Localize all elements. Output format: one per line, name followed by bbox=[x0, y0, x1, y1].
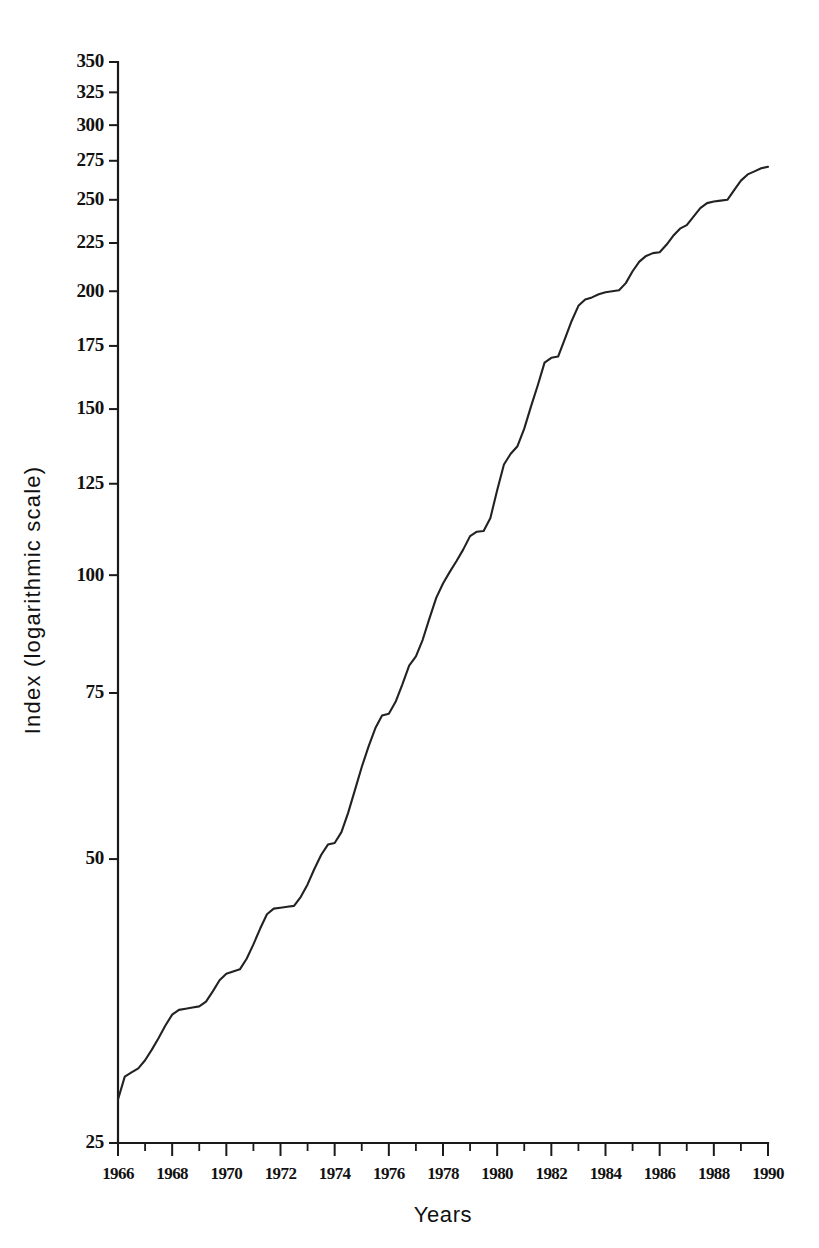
x-tick-label: 1984 bbox=[590, 1164, 623, 1183]
line-chart: 255075100125150175200225250275300325350 … bbox=[0, 0, 819, 1248]
x-tick-label: 1970 bbox=[211, 1164, 243, 1183]
y-axis: 255075100125150175200225250275300325350 bbox=[76, 50, 118, 1152]
index-line bbox=[118, 167, 768, 1100]
y-tick-label: 325 bbox=[76, 81, 104, 102]
x-tick-label: 1968 bbox=[156, 1164, 188, 1183]
x-tick-label: 1972 bbox=[265, 1164, 297, 1183]
x-tick-label: 1986 bbox=[644, 1164, 676, 1183]
x-axis: 1966196819701972197419761978198019821984… bbox=[102, 1143, 784, 1183]
y-tick-label: 50 bbox=[86, 847, 104, 868]
x-axis-title: Years bbox=[414, 1202, 472, 1227]
y-tick-label: 200 bbox=[76, 280, 104, 301]
y-tick-label: 25 bbox=[86, 1131, 104, 1152]
y-tick-label: 275 bbox=[76, 149, 104, 170]
y-tick-label: 125 bbox=[76, 472, 104, 493]
y-tick-label: 300 bbox=[76, 114, 104, 135]
y-tick-label: 100 bbox=[76, 564, 104, 585]
y-tick-label: 225 bbox=[76, 231, 104, 252]
x-tick-label: 1978 bbox=[427, 1164, 459, 1183]
y-tick-label: 175 bbox=[76, 334, 104, 355]
chart-figure: 255075100125150175200225250275300325350 … bbox=[0, 0, 819, 1248]
y-tick-label: 150 bbox=[76, 397, 104, 418]
x-tick-label: 1990 bbox=[752, 1164, 784, 1183]
data-series bbox=[118, 167, 768, 1100]
y-tick-label: 75 bbox=[86, 681, 104, 702]
y-tick-label: 350 bbox=[76, 50, 104, 71]
y-axis-title: Index (logarithmic scale) bbox=[20, 466, 45, 734]
x-tick-label: 1982 bbox=[536, 1164, 568, 1183]
x-tick-label: 1976 bbox=[373, 1164, 405, 1183]
x-tick-label: 1966 bbox=[102, 1164, 134, 1183]
y-tick-label: 250 bbox=[76, 188, 104, 209]
x-tick-label: 1988 bbox=[698, 1164, 730, 1183]
x-tick-label: 1974 bbox=[319, 1164, 352, 1183]
x-tick-label: 1980 bbox=[481, 1164, 513, 1183]
